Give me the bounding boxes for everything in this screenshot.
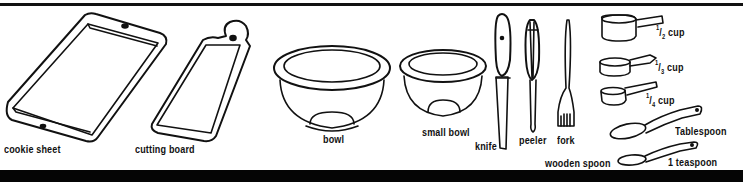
- label-cutting-board: cutting board: [135, 143, 195, 155]
- label-third-cup: 1/3 cup: [655, 60, 684, 75]
- label-peeler: peeler: [519, 134, 547, 146]
- label-bowl: bowl: [323, 133, 344, 145]
- label-small-bowl: small bowl: [422, 126, 470, 138]
- label-tablespoon: Tablespoon: [675, 125, 727, 137]
- cookie-sheet-drawing: [7, 13, 167, 141]
- label-cookie-sheet: cookie sheet: [4, 143, 61, 155]
- label-teaspoon: 1 teaspoon: [668, 156, 717, 168]
- bottom-border-bar: [0, 170, 743, 182]
- third-cup-drawing: [600, 55, 656, 76]
- knife-drawing: [495, 14, 510, 149]
- label-wooden-spoon: wooden spoon: [545, 157, 611, 169]
- label-quarter-cup: 1/4 cup: [646, 93, 675, 108]
- label-fork: fork: [557, 134, 575, 146]
- peeler-drawing: [526, 20, 540, 132]
- label-knife: knife: [475, 140, 497, 152]
- small-bowl-drawing: [400, 50, 486, 116]
- bowl-drawing: [274, 46, 390, 131]
- half-cup-drawing: [602, 15, 663, 41]
- label-half-cup: 1/2 cup: [656, 25, 685, 40]
- fork-drawing: [558, 20, 574, 126]
